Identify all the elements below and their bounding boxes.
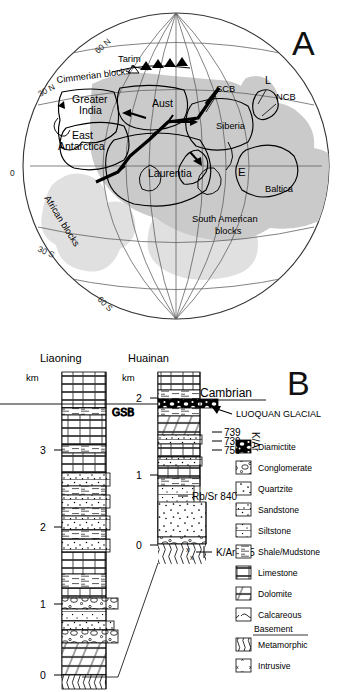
legend-label-diamictite: Diamictite bbox=[258, 442, 296, 452]
legend-swatch-metamorphic bbox=[236, 638, 251, 651]
svg-text:x: x bbox=[190, 554, 194, 561]
liaoning-unit bbox=[62, 415, 106, 445]
liaoning-unit bbox=[62, 372, 106, 408]
liaoning-unit bbox=[62, 598, 118, 609]
huainan-tick-0: 0 bbox=[136, 539, 142, 551]
liaoning-unit bbox=[62, 473, 110, 486]
column-title-liaoning: Liaoning bbox=[40, 352, 82, 364]
liaoning-unit bbox=[62, 453, 106, 473]
terrane-label-india: India bbox=[79, 104, 102, 116]
legend-swatch-shale bbox=[236, 545, 251, 558]
terrane-label-laurentia: Laurentia bbox=[148, 167, 192, 179]
graticule-label: 0 bbox=[10, 168, 15, 178]
liaoning-unit bbox=[62, 486, 106, 495]
liaoning-unit bbox=[62, 609, 106, 621]
liaoning-unit bbox=[62, 552, 106, 574]
huainan-unit bbox=[158, 372, 200, 390]
legend-label-siltstone: Siltstone bbox=[258, 526, 291, 536]
legend-label-quartzite: Quartzite bbox=[258, 484, 293, 494]
liaoning-unit bbox=[62, 495, 110, 508]
terrane-label-siberia: Siberia bbox=[216, 121, 246, 131]
liaoning-unit bbox=[62, 574, 106, 588]
panel-b-letter: B bbox=[287, 364, 310, 402]
huainan-basement bbox=[158, 544, 206, 564]
huainan-unit bbox=[158, 466, 200, 478]
huainan-unit bbox=[158, 390, 200, 399]
huainan-tick-1: 1 bbox=[136, 469, 142, 481]
legend-label-sandstone: Sandstone bbox=[258, 505, 299, 515]
legend-swatch-dolomite bbox=[236, 587, 251, 600]
terrane-label-tarim: Tarim bbox=[118, 54, 141, 64]
liaoning-unit bbox=[62, 539, 110, 552]
terrane-label-scb: SCB bbox=[216, 84, 235, 94]
terrane-label-l: L bbox=[265, 74, 271, 86]
figure-root: x x A bbox=[0, 0, 351, 692]
legend-swatch-sandstone bbox=[236, 503, 251, 516]
svg-text:x: x bbox=[186, 546, 190, 553]
liaoning-unit bbox=[62, 508, 106, 516]
liaoning-tick-0: 0 bbox=[40, 669, 46, 681]
liaoning-unit bbox=[62, 588, 106, 598]
legend-swatch-siltstone bbox=[236, 524, 251, 537]
huainan-axis-unit: km bbox=[122, 372, 135, 383]
legend-swatch-intrusive bbox=[236, 659, 251, 672]
huainan-unit bbox=[158, 435, 202, 444]
legend-label-dolomite: Dolomite bbox=[258, 589, 292, 599]
legend-swatch-diamictite bbox=[236, 440, 251, 453]
huainan-unit bbox=[158, 416, 200, 435]
liaoning-unit bbox=[62, 445, 106, 453]
gsb-label: GSB bbox=[112, 406, 134, 418]
liaoning-tick-2: 2 bbox=[40, 521, 46, 533]
liaoning-unit bbox=[62, 630, 118, 643]
column-title-huainan: Huainan bbox=[128, 352, 169, 364]
annotation-cambrian: Cambrian bbox=[200, 386, 252, 400]
liaoning-tick-1: 1 bbox=[40, 598, 46, 610]
liaoning-unit bbox=[62, 516, 110, 530]
huainan-unit bbox=[158, 457, 202, 466]
legend-label-conglomerate: Conglomerate bbox=[258, 463, 312, 473]
huainan-unit bbox=[158, 408, 200, 416]
huainan-quartzite bbox=[158, 502, 206, 537]
huainan-conglomerate bbox=[158, 537, 206, 544]
legend-swatch-calcareous bbox=[236, 608, 251, 621]
legend-label-calcareous: Calcareous bbox=[258, 610, 301, 620]
huainan-unit bbox=[158, 444, 200, 457]
legend-label-metamorphic: Metamorphic bbox=[258, 640, 308, 650]
liaoning-unit bbox=[62, 530, 106, 539]
annotation-rbsr-840: Rb/Sr 840 bbox=[192, 491, 237, 502]
terrane-label-e: E bbox=[238, 166, 246, 178]
terrane-label-south-american: South American bbox=[192, 214, 258, 224]
huainan-unit bbox=[158, 478, 200, 486]
terrane-label-ncb: NCB bbox=[276, 92, 296, 102]
legend-swatch-conglomerate bbox=[236, 461, 251, 474]
legend-label-shale: Shale/Mudstone bbox=[258, 547, 320, 557]
figure-canvas: x x A bbox=[0, 0, 351, 692]
panel-a-letter: A bbox=[292, 24, 315, 62]
legend-swatch-limestone bbox=[236, 566, 251, 579]
huainan-tick-2: 2 bbox=[136, 392, 142, 404]
terrane-label-blocks: blocks bbox=[215, 226, 242, 236]
legend-label-basement: Basement bbox=[254, 624, 293, 634]
legend-label-intrusive: Intrusive bbox=[258, 661, 291, 671]
liaoning-tick-3: 3 bbox=[40, 444, 46, 456]
legend-label-limestone: Limestone bbox=[258, 568, 298, 578]
terrane-label-antarctica: Antarctica bbox=[58, 140, 105, 152]
terrane-label-baltica: Baltica bbox=[265, 184, 294, 194]
liaoning-unit bbox=[62, 408, 106, 415]
annotation-luoquan: LUOQUAN GLACIAL bbox=[236, 409, 321, 419]
liaoning-unit bbox=[62, 643, 106, 675]
liaoning-axis-unit: km bbox=[26, 372, 39, 383]
legend-swatch-quartzite bbox=[236, 482, 251, 495]
terrane-label-aust: Aust bbox=[152, 97, 173, 109]
